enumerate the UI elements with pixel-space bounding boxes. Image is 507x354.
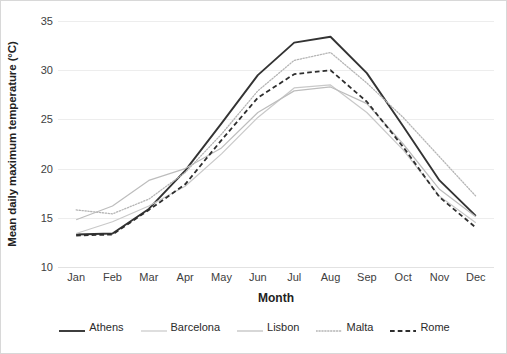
legend-item-athens[interactable]: Athens: [59, 321, 123, 333]
y-tick-label: 20: [27, 163, 53, 175]
x-tick-label: Feb: [103, 271, 122, 283]
legend-swatch-icon: [316, 322, 342, 332]
legend-item-rome[interactable]: Rome: [390, 321, 449, 333]
x-axis-tick-labels: JanFebMarAprMayJunJulAugSepOctNovDec: [58, 271, 494, 289]
series-lines: [58, 21, 494, 267]
chart-legend: AthensBarcelonaLisbonMaltaRome: [1, 321, 507, 333]
series-line-rome: [76, 70, 476, 235]
legend-label: Lisbon: [267, 321, 299, 333]
y-tick-label: 10: [27, 261, 53, 273]
x-tick-label: Apr: [177, 271, 194, 283]
legend-label: Barcelona: [171, 321, 221, 333]
legend-label: Rome: [420, 321, 449, 333]
y-axis-title: Mean daily maximum temperature (°C): [1, 1, 23, 286]
plot-area: [58, 21, 494, 267]
legend-label: Malta: [346, 321, 373, 333]
x-tick-label: Dec: [466, 271, 486, 283]
x-tick-label: Jan: [67, 271, 85, 283]
series-line-lisbon: [76, 87, 476, 220]
legend-item-malta[interactable]: Malta: [316, 321, 373, 333]
legend-label: Athens: [89, 321, 123, 333]
legend-swatch-icon: [237, 322, 263, 332]
x-tick-label: Aug: [321, 271, 341, 283]
y-axis-title-label: Mean daily maximum temperature (°C): [6, 41, 18, 247]
legend-swatch-icon: [59, 322, 85, 332]
x-tick-label: Oct: [395, 271, 412, 283]
y-axis-tick-labels: 101520253035: [21, 1, 53, 354]
x-tick-label: Jul: [287, 271, 301, 283]
legend-item-barcelona[interactable]: Barcelona: [141, 321, 221, 333]
x-axis-title: Month: [58, 291, 494, 305]
temperature-line-chart: Mean daily maximum temperature (°C) 1015…: [0, 0, 507, 354]
y-tick-label: 30: [27, 64, 53, 76]
x-tick-label: Jun: [249, 271, 267, 283]
y-tick-label: 35: [27, 15, 53, 27]
x-tick-label: Mar: [139, 271, 158, 283]
legend-item-lisbon[interactable]: Lisbon: [237, 321, 299, 333]
x-tick-label: May: [211, 271, 232, 283]
gridline: [58, 267, 494, 268]
legend-swatch-icon: [390, 322, 416, 332]
y-tick-label: 25: [27, 113, 53, 125]
y-tick-label: 15: [27, 212, 53, 224]
x-tick-label: Sep: [357, 271, 377, 283]
legend-swatch-icon: [141, 322, 167, 332]
x-tick-label: Nov: [430, 271, 450, 283]
